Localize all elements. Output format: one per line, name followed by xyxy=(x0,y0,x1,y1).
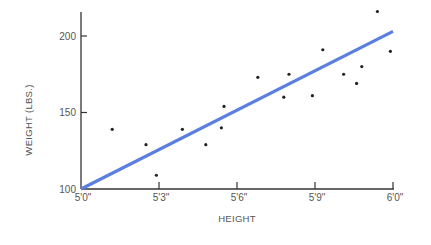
x-axis-title: HEIGHT xyxy=(218,213,256,224)
x-tick-label: 5'9" xyxy=(309,192,326,203)
plot-area: 1001502005'0"5'3"5'6"5'9"6'0"HEIGHTWEIGH… xyxy=(23,10,404,224)
data-point xyxy=(220,126,223,129)
x-tick-label: 5'3" xyxy=(153,192,170,203)
data-point xyxy=(287,73,290,76)
data-point xyxy=(321,48,324,51)
data-point xyxy=(376,10,379,13)
data-point xyxy=(111,128,114,131)
x-tick-label: 5'6" xyxy=(231,192,248,203)
regression-line xyxy=(81,31,393,189)
data-point xyxy=(222,105,225,108)
data-point xyxy=(282,96,285,99)
data-point xyxy=(389,50,392,53)
data-point xyxy=(144,143,147,146)
data-point xyxy=(342,73,345,76)
y-axis-title: WEIGHT (LBS.) xyxy=(23,84,34,155)
data-point xyxy=(155,174,158,177)
y-tick-label: 200 xyxy=(59,31,76,42)
data-point xyxy=(181,128,184,131)
data-point xyxy=(204,143,207,146)
data-point xyxy=(360,65,363,68)
data-point xyxy=(311,94,314,97)
data-point xyxy=(256,76,259,79)
scatter-chart: 1001502005'0"5'3"5'6"5'9"6'0"HEIGHTWEIGH… xyxy=(0,0,431,245)
y-tick-label: 150 xyxy=(59,107,76,118)
x-tick-label: 6'0" xyxy=(387,192,404,203)
data-point xyxy=(355,82,358,85)
x-tick-label: 5'0" xyxy=(75,192,92,203)
